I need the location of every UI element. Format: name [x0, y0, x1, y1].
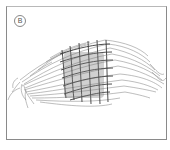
weave-illustration [0, 0, 170, 150]
weave-shading [64, 52, 104, 98]
